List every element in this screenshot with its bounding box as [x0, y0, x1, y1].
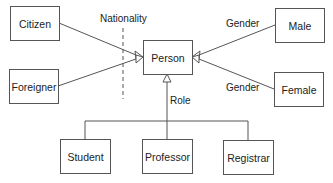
discriminator-nationality: Nationality	[100, 13, 147, 24]
edge-foreigner-person	[58, 59, 136, 86]
class-professor-label: Professor	[145, 151, 190, 163]
class-female: Female	[274, 72, 324, 107]
class-citizen: Citizen	[10, 6, 60, 41]
class-registrar: Registrar	[223, 140, 274, 175]
discriminator-role: Role	[170, 95, 191, 106]
class-male-label: Male	[289, 20, 312, 32]
class-student-label: Student	[67, 151, 103, 163]
arrowhead-right-bottom	[192, 55, 199, 63]
edge-male-person	[199, 25, 275, 55]
edge-citizen-person	[59, 23, 136, 55]
class-foreigner: Foreigner	[9, 69, 59, 104]
arrowhead-bottom	[163, 74, 171, 82]
arrowhead-left-bottom	[136, 55, 143, 63]
class-citizen-label: Citizen	[19, 18, 51, 30]
class-person: Person	[143, 40, 193, 75]
class-person-label: Person	[151, 52, 184, 64]
discriminator-gender-top: Gender	[226, 18, 259, 29]
class-student: Student	[60, 139, 111, 174]
class-male: Male	[275, 8, 325, 43]
class-professor: Professor	[142, 139, 193, 174]
class-registrar-label: Registrar	[227, 152, 270, 164]
discriminator-gender-bottom: Gender	[226, 82, 259, 93]
class-foreigner-label: Foreigner	[12, 81, 57, 93]
class-female-label: Female	[281, 84, 316, 96]
